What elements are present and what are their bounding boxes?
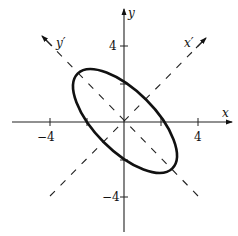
y-prime-arrow bbox=[42, 36, 52, 46]
y-tick-label-4: 4 bbox=[109, 39, 117, 53]
y-axis-label: y bbox=[127, 6, 135, 20]
x-tick-label-4: 4 bbox=[194, 130, 202, 144]
y-prime-label: y′ bbox=[55, 36, 66, 50]
x-axis-label: x bbox=[222, 106, 229, 120]
x-prime-label: x′ bbox=[184, 36, 194, 50]
diagram-canvas: y x x′ y′ −4 4 4 −4 bbox=[0, 0, 238, 236]
x-prime-arrow bbox=[196, 38, 206, 48]
x-prime-axis bbox=[50, 40, 204, 196]
rotated-ellipse bbox=[56, 52, 193, 189]
y-prime-axis bbox=[44, 38, 198, 196]
x-tick-label-neg4: −4 bbox=[37, 130, 55, 144]
y-tick-label-neg4: −4 bbox=[102, 190, 120, 204]
